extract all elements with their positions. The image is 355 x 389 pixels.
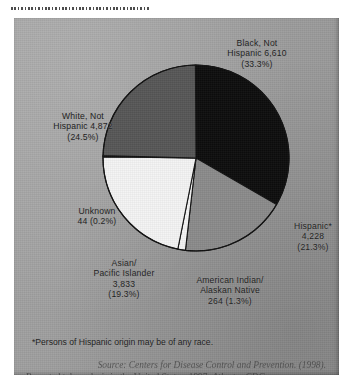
source-citation-line-2-publisher: Atlanta: CDC. bbox=[212, 372, 267, 375]
figure-page: Black, Not Hispanic 6,610 (33.3%) White,… bbox=[0, 0, 355, 389]
pie-chart-graphic bbox=[14, 18, 339, 375]
dotted-rule-divider bbox=[11, 7, 149, 10]
source-citation: Source: Centers for Disease Control and … bbox=[22, 359, 332, 375]
pie-label-american-indian-alaskan-native: American Indian/ Alaskan Native 264 (1.3… bbox=[166, 275, 294, 306]
hispanic-origin-footnote: *Persons of Hispanic origin may be of an… bbox=[32, 337, 322, 348]
pie-label-unknown: Unknown 44 (0.2%) bbox=[50, 206, 144, 227]
pie-label-hispanic: Hispanic* 4,228 (21.3%) bbox=[272, 221, 339, 252]
pie-chart-figure-panel: Black, Not Hispanic 6,610 (33.3%) White,… bbox=[14, 18, 339, 375]
pie-label-white-not-hispanic: White, Not Hispanic 4,872 (24.5%) bbox=[24, 111, 142, 142]
source-citation-line-2: Reported tuberculosis in the United Stat… bbox=[22, 371, 332, 375]
source-citation-line-2-title: Reported tuberculosis in the United Stat… bbox=[26, 372, 212, 375]
pie-label-black-not-hispanic: Black, Not Hispanic 6,610 (33.3%) bbox=[196, 38, 318, 69]
source-citation-line-1: Source: Centers for Disease Control and … bbox=[22, 359, 332, 371]
